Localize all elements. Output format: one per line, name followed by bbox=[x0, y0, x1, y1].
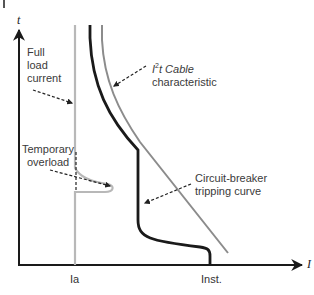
tick-label-inst: Inst. bbox=[201, 273, 222, 286]
leader-temporary-overload bbox=[50, 170, 110, 186]
circuit-breaker-label: Circuit-breaker tripping curve bbox=[195, 172, 267, 198]
leader-full-load bbox=[33, 90, 72, 103]
cable-label-line1: I2t Cable bbox=[152, 59, 217, 76]
leader-cable bbox=[114, 66, 146, 86]
y-axis-label: t bbox=[17, 14, 20, 27]
tick-label-ia: Ia bbox=[70, 273, 79, 286]
temporary-overload-label: Temporary overload bbox=[22, 143, 74, 169]
x-axis-label: I bbox=[307, 258, 311, 271]
full-load-current-label: Full load current bbox=[27, 46, 61, 85]
cable-characteristic-label: I2t Cable characteristic bbox=[152, 59, 217, 89]
leader-circuit-breaker bbox=[145, 184, 191, 203]
full-load-current-curve bbox=[75, 25, 113, 265]
